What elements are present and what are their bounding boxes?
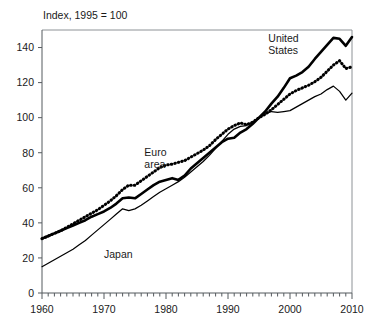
y-axis-tick-label: 100 — [16, 111, 34, 123]
chart-svg: 0204060801001201401960197019801990200020… — [0, 0, 375, 335]
x-axis-tick-label: 2000 — [278, 303, 302, 315]
x-axis-tick-label: 1980 — [154, 303, 178, 315]
data-series — [42, 37, 352, 267]
y-axis-tick-label: 120 — [16, 76, 34, 88]
series-annotations: UnitedStatesEuroareaJapan — [104, 32, 299, 260]
annotation-label: area — [144, 158, 165, 170]
series-line-united-states — [42, 37, 352, 239]
y-axis-tick-label: 40 — [22, 217, 34, 229]
y-axis-tick-label: 0 — [28, 287, 34, 299]
series-line-euro-area — [42, 61, 352, 239]
annotation-label: Euro — [144, 146, 166, 158]
x-axis-tick-label: 1990 — [216, 303, 240, 315]
annotation-label: United — [268, 32, 299, 44]
x-axis-tick-label: 1970 — [92, 303, 116, 315]
y-axis-tick-label: 20 — [22, 252, 34, 264]
x-axis-tick-label: 1960 — [30, 303, 54, 315]
annotation-label: Japan — [104, 248, 133, 260]
chart-container: 0204060801001201401960197019801990200020… — [0, 0, 375, 335]
y-axis-tick-label: 80 — [22, 147, 34, 159]
annotation-label: States — [268, 44, 298, 56]
chart-title: Index, 1995 = 100 — [43, 9, 128, 21]
series-line-japan — [42, 86, 352, 267]
x-axis-tick-label: 2010 — [340, 303, 364, 315]
y-axis-tick-label: 60 — [22, 182, 34, 194]
y-axis-tick-label: 140 — [16, 41, 34, 53]
